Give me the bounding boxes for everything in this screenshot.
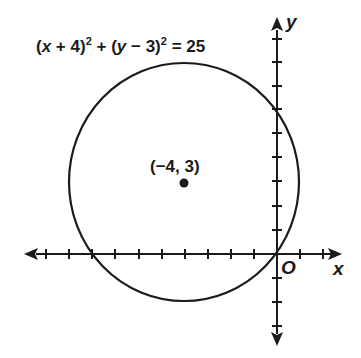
- y-axis-up-arrow-icon: [271, 17, 283, 31]
- circle-graph: (−4, 3) (x + 4)2 + (y − 3)2 = 25 y x O: [0, 0, 361, 358]
- y-axis-label: y: [285, 11, 298, 32]
- center-point: [180, 179, 189, 188]
- y-axis-down-arrow-icon: [271, 332, 283, 346]
- center-label: (−4, 3): [150, 157, 200, 176]
- x-axis-left-arrow-icon: [24, 248, 38, 260]
- y-axis: [272, 30, 282, 334]
- equation-label: (x + 4)2 + (y − 3)2 = 25: [36, 35, 205, 56]
- origin-label: O: [281, 257, 296, 278]
- x-axis-label: x: [332, 258, 345, 279]
